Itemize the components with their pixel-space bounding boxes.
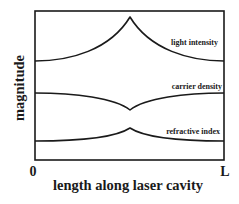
- x-axis-label: length along laser cavity: [53, 177, 204, 193]
- laser-cavity-diagram: light intensity carrier density refracti…: [0, 0, 239, 204]
- y-axis-label: magnitude: [11, 54, 27, 121]
- x-axis-end-label: L: [220, 164, 229, 179]
- carrier-density-label: carrier density: [172, 82, 222, 91]
- refractive-index-label: refractive index: [166, 127, 220, 136]
- light-intensity-label: light intensity: [171, 38, 218, 47]
- carrier-density-curve: [35, 93, 224, 110]
- x-axis-start-label: 0: [30, 164, 37, 179]
